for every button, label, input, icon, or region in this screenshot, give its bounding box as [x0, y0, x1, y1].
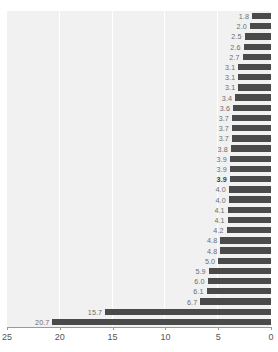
bar-value-label: 4.8	[207, 246, 217, 255]
bar-row[interactable]: 4.0	[7, 196, 271, 202]
bar-row[interactable]: 3.1	[7, 84, 271, 90]
bar-row[interactable]: 6.0	[7, 278, 271, 284]
bar-value-label: 3.9	[217, 164, 227, 173]
bar[interactable]	[220, 237, 271, 243]
bar-value-label: 4.0	[215, 185, 225, 194]
axis-tick-label: 5	[216, 332, 221, 342]
bar-row[interactable]: 4.0	[7, 186, 271, 192]
axis-tick	[7, 327, 8, 330]
bar-value-label: 3.4	[222, 93, 232, 102]
bar[interactable]	[232, 125, 271, 131]
bar-row[interactable]: 4.1	[7, 217, 271, 223]
axis-tick	[271, 327, 272, 330]
bar[interactable]	[238, 84, 271, 90]
bar-value-label: 3.7	[219, 114, 229, 123]
axis-tick-label: 25	[2, 332, 12, 342]
bar-value-label: 20.7	[35, 317, 49, 326]
axis-tick	[113, 327, 114, 330]
bar-row[interactable]: 3.4	[7, 94, 271, 100]
bar-row[interactable]: 3.7	[7, 135, 271, 141]
bar-value-label: 3.1	[225, 63, 235, 72]
bar-row[interactable]: 4.2	[7, 227, 271, 233]
bar-value-label: 3.8	[218, 144, 228, 153]
bar-value-label: 4.1	[214, 215, 224, 224]
bar-row[interactable]: 6.1	[7, 288, 271, 294]
bar-row[interactable]: 2.5	[7, 33, 271, 39]
bar-row[interactable]: 3.7	[7, 125, 271, 131]
bar[interactable]	[52, 319, 271, 325]
bar-row[interactable]: 3.1	[7, 74, 271, 80]
bar[interactable]	[231, 145, 271, 151]
bar-row[interactable]: 3.9	[7, 166, 271, 172]
bar[interactable]	[208, 278, 271, 284]
bar-row[interactable]: 3.8	[7, 145, 271, 151]
bar[interactable]	[235, 94, 271, 100]
bar[interactable]	[250, 23, 271, 29]
chart-title	[0, 0, 278, 9]
bar[interactable]	[209, 268, 271, 274]
bar-value-label: 6.7	[187, 297, 197, 306]
bar-row[interactable]: 2.6	[7, 44, 271, 50]
bar[interactable]	[244, 44, 271, 50]
bar[interactable]	[220, 247, 271, 253]
bar-row[interactable]: 3.9	[7, 176, 271, 182]
bar[interactable]	[228, 207, 271, 213]
bar[interactable]	[105, 309, 271, 315]
bar[interactable]	[245, 33, 271, 39]
bar[interactable]	[238, 74, 271, 80]
bar-row[interactable]: 4.8	[7, 237, 271, 243]
axis-tick	[165, 327, 166, 330]
bar[interactable]	[233, 105, 271, 111]
bar[interactable]	[227, 227, 271, 233]
bars-layer: 1.82.02.52.62.73.13.13.13.43.63.73.73.73…	[7, 11, 271, 327]
axis-tick-label: 0	[268, 332, 273, 342]
bar[interactable]	[232, 135, 271, 141]
bar-value-label: 2.7	[229, 52, 239, 61]
bar-value-label: 6.1	[193, 287, 203, 296]
axis-tick	[60, 327, 61, 330]
bar-value-label: 3.7	[219, 134, 229, 143]
bar-value-label: 3.1	[225, 83, 235, 92]
bar[interactable]	[230, 156, 271, 162]
bar-value-label: 3.1	[225, 73, 235, 82]
bar-value-label: 4.0	[215, 195, 225, 204]
bar-row[interactable]: 20.7	[7, 319, 271, 325]
bar-row[interactable]: 2.0	[7, 23, 271, 29]
bar[interactable]	[230, 176, 271, 182]
bar-row[interactable]: 15.7	[7, 309, 271, 315]
bar[interactable]	[243, 54, 272, 60]
bar-row[interactable]: 3.1	[7, 64, 271, 70]
bar-value-label: 3.6	[220, 103, 230, 112]
bar[interactable]	[252, 13, 271, 19]
bar-row[interactable]: 4.8	[7, 247, 271, 253]
axis-tick-label: 20	[55, 332, 65, 342]
bar-row[interactable]: 5.0	[7, 258, 271, 264]
bar-value-label: 3.7	[219, 124, 229, 133]
bar[interactable]	[218, 258, 271, 264]
bar[interactable]	[229, 186, 271, 192]
bar-value-label: 2.0	[237, 22, 247, 31]
bar-value-label: 2.5	[231, 32, 241, 41]
bar[interactable]	[230, 166, 271, 172]
bar[interactable]	[229, 196, 271, 202]
bar-row[interactable]: 2.7	[7, 54, 271, 60]
bar-row[interactable]: 4.1	[7, 207, 271, 213]
bar[interactable]	[228, 217, 271, 223]
bar-row[interactable]: 3.9	[7, 156, 271, 162]
bar[interactable]	[200, 298, 271, 304]
x-axis-line	[7, 327, 271, 328]
bar[interactable]	[232, 115, 271, 121]
bar[interactable]	[207, 288, 271, 294]
bar[interactable]	[238, 64, 271, 70]
bar-value-label: 4.1	[214, 205, 224, 214]
bar-value-label: 6.0	[194, 277, 204, 286]
bar-value-label: 1.8	[239, 12, 249, 21]
bar-row[interactable]: 6.7	[7, 298, 271, 304]
bar-row[interactable]: 3.7	[7, 115, 271, 121]
bar-value-label: 3.9	[217, 154, 227, 163]
bar-row[interactable]: 3.6	[7, 105, 271, 111]
bar-value-label: 2.6	[230, 42, 240, 51]
bar-row[interactable]: 1.8	[7, 13, 271, 19]
axis-tick	[218, 327, 219, 330]
bar-row[interactable]: 5.9	[7, 268, 271, 274]
